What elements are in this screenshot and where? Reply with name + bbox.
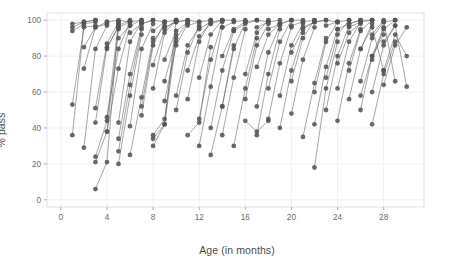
line-chart: 0481216202428 020406080100 <box>0 0 450 260</box>
x-tick-label: 0 <box>59 213 64 222</box>
y-tick-label: 100 <box>27 16 41 25</box>
chart-container: 0481216202428 020406080100 Age (in month… <box>0 0 450 260</box>
y-tick-label: 20 <box>32 160 42 169</box>
x-axis-title: Age (in months) <box>0 244 450 256</box>
x-axis-tick-labels: 0481216202428 <box>59 207 389 222</box>
y-tick-label: 40 <box>32 124 42 133</box>
x-tick-label: 16 <box>241 213 251 222</box>
y-tick-label: 80 <box>32 52 42 61</box>
x-tick-label: 4 <box>105 213 110 222</box>
x-tick-label: 28 <box>379 213 389 222</box>
y-axis-tick-labels: 020406080100 <box>27 16 47 205</box>
x-tick-label: 12 <box>195 213 205 222</box>
x-tick-label: 8 <box>151 213 156 222</box>
y-tick-label: 0 <box>36 196 41 205</box>
plot-panel <box>47 13 424 207</box>
x-tick-label: 24 <box>333 213 343 222</box>
y-axis-title: % pass <box>0 112 7 147</box>
x-tick-label: 20 <box>287 213 297 222</box>
y-tick-label: 60 <box>32 88 42 97</box>
